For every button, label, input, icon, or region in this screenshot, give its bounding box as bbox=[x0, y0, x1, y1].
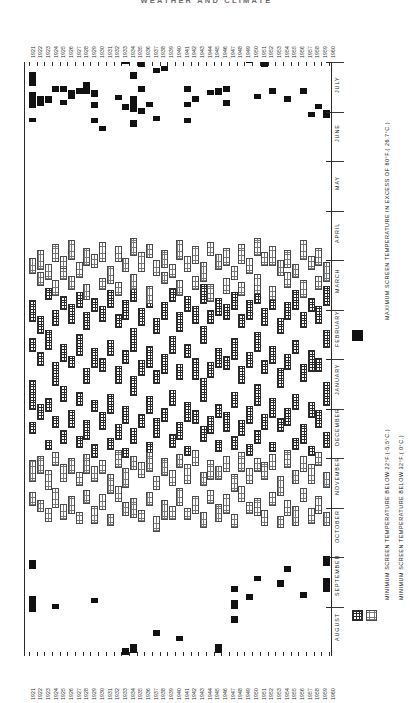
data-mark bbox=[246, 406, 253, 424]
year-tick-top bbox=[206, 62, 207, 66]
year-label-bottom: 1923 bbox=[45, 688, 51, 700]
year-label-top: 1939 bbox=[168, 46, 174, 58]
month-divider bbox=[332, 260, 344, 261]
data-mark bbox=[122, 648, 129, 655]
data-mark bbox=[45, 470, 52, 490]
year-tick-bottom bbox=[214, 652, 215, 656]
year-label-bottom: 1942 bbox=[191, 688, 197, 700]
data-mark bbox=[83, 312, 90, 330]
data-mark bbox=[254, 384, 261, 406]
data-mark bbox=[269, 492, 276, 506]
month-divider bbox=[332, 607, 344, 608]
data-mark bbox=[308, 112, 315, 117]
data-mark bbox=[169, 336, 176, 354]
plot-canvas bbox=[25, 62, 331, 656]
data-mark bbox=[315, 358, 322, 372]
year-label-top: 1927 bbox=[76, 46, 82, 58]
data-mark bbox=[215, 404, 222, 418]
data-mark bbox=[83, 284, 90, 300]
data-mark bbox=[60, 86, 67, 92]
year-tick-top bbox=[191, 62, 192, 66]
data-mark bbox=[115, 450, 122, 468]
data-mark bbox=[161, 500, 168, 520]
data-mark bbox=[52, 310, 59, 326]
year-tick-top bbox=[44, 62, 45, 66]
data-mark bbox=[176, 312, 183, 332]
data-mark bbox=[115, 282, 122, 296]
data-mark bbox=[153, 116, 160, 121]
data-mark bbox=[231, 436, 238, 450]
data-mark bbox=[200, 512, 207, 528]
year-label-top: 1932 bbox=[114, 46, 120, 58]
year-label-top: 1958 bbox=[314, 46, 320, 58]
year-tick-bottom bbox=[29, 652, 30, 656]
data-mark bbox=[192, 496, 199, 514]
year-label-top: 1947 bbox=[230, 46, 236, 58]
year-tick-bottom bbox=[244, 652, 245, 656]
data-mark bbox=[169, 470, 176, 486]
data-mark bbox=[323, 472, 330, 488]
data-mark bbox=[300, 88, 307, 94]
data-mark bbox=[52, 488, 59, 508]
data-mark bbox=[29, 492, 36, 506]
data-mark bbox=[29, 422, 36, 434]
year-label-bottom: 1933 bbox=[122, 688, 128, 700]
data-mark bbox=[284, 408, 291, 426]
year-label-bottom: 1924 bbox=[53, 688, 59, 700]
data-mark bbox=[254, 332, 261, 352]
data-mark bbox=[138, 462, 145, 478]
data-mark bbox=[261, 462, 268, 480]
year-tick-top bbox=[152, 62, 153, 66]
data-mark bbox=[284, 354, 291, 370]
data-mark bbox=[184, 464, 191, 484]
data-mark bbox=[200, 262, 207, 282]
data-mark bbox=[284, 566, 291, 572]
data-mark bbox=[76, 436, 83, 448]
year-tick-bottom bbox=[298, 652, 299, 656]
year-tick-top bbox=[268, 62, 269, 66]
data-mark bbox=[68, 240, 75, 260]
data-mark bbox=[261, 360, 268, 374]
data-mark bbox=[115, 95, 122, 100]
data-mark bbox=[115, 314, 122, 328]
year-label-bottom: 1950 bbox=[253, 688, 259, 700]
data-mark bbox=[130, 72, 137, 79]
year-tick-bottom bbox=[221, 652, 222, 656]
data-mark bbox=[130, 96, 137, 112]
data-mark bbox=[130, 456, 137, 470]
data-mark bbox=[107, 290, 114, 308]
data-mark bbox=[223, 100, 230, 106]
year-tick-bottom bbox=[306, 652, 307, 656]
month-label: FEBRUARY bbox=[334, 310, 340, 346]
year-tick-bottom bbox=[268, 652, 269, 656]
data-mark bbox=[200, 326, 207, 344]
data-mark bbox=[200, 378, 207, 402]
data-mark bbox=[76, 262, 83, 278]
data-mark bbox=[223, 356, 230, 370]
data-mark bbox=[323, 262, 330, 282]
year-label-top: 1925 bbox=[60, 46, 66, 58]
month-tick bbox=[326, 409, 331, 410]
year-tick-bottom bbox=[167, 652, 168, 656]
data-mark bbox=[68, 276, 75, 290]
data-mark bbox=[91, 348, 98, 368]
year-label-bottom: 1922 bbox=[37, 688, 43, 700]
data-mark bbox=[115, 424, 122, 440]
data-mark bbox=[231, 292, 238, 310]
data-mark bbox=[83, 82, 90, 94]
year-label-bottom: 1960 bbox=[330, 688, 336, 700]
year-label-top: 1943 bbox=[199, 46, 205, 58]
data-mark bbox=[83, 420, 90, 440]
year-label-bottom: 1941 bbox=[184, 688, 190, 700]
data-mark bbox=[223, 494, 230, 514]
data-mark bbox=[300, 312, 307, 328]
year-label-bottom: 1937 bbox=[153, 688, 159, 700]
data-mark bbox=[29, 118, 36, 122]
data-mark bbox=[52, 604, 59, 609]
legend-label: MINIMUM SCREEN TEMPERATURE BELOW 22°F.(-… bbox=[384, 429, 390, 600]
data-mark bbox=[207, 362, 214, 378]
data-mark bbox=[146, 102, 153, 107]
year-tick-bottom bbox=[121, 652, 122, 656]
data-mark bbox=[29, 380, 36, 410]
data-mark bbox=[292, 340, 299, 354]
